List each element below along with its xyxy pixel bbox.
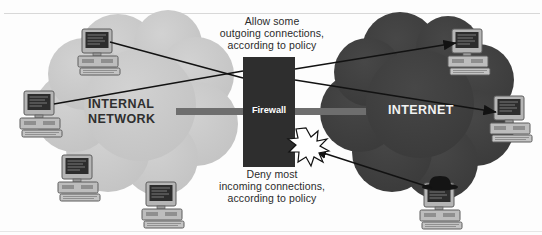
zone-label-internet: INTERNET: [388, 103, 492, 117]
zone-label-internal: INTERNAL NETWORK: [88, 97, 192, 127]
caption-allow-outgoing: Allow some outgoing connections, accordi…: [196, 15, 348, 52]
firewall-network-diagram: Firewall: [0, 0, 542, 235]
caption-deny-incoming: Deny most incoming connections, accordin…: [196, 168, 348, 205]
blocked-starburst-icon: [288, 128, 329, 166]
